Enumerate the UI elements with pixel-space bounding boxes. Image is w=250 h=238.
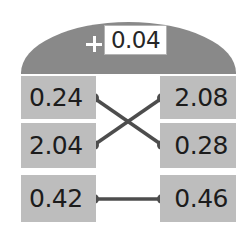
row-1: 0.24 2.08 — [0, 76, 250, 119]
row-1-left-value: 0.24 — [29, 83, 83, 112]
row-2-right-cell[interactable]: 0.28 — [160, 123, 236, 168]
row-1-right-cell[interactable]: 2.08 — [160, 76, 236, 119]
header-value-field[interactable]: 0.04 — [104, 25, 167, 55]
row-2-left-cell[interactable]: 2.04 — [21, 123, 96, 168]
row-2: 2.04 0.28 — [0, 123, 250, 168]
diagram-canvas: 0.04 0.24 2.08 2.04 0.28 0.42 0.46 — [0, 0, 250, 238]
header-value-text: 0.04 — [111, 27, 160, 53]
row-1-right-value: 2.08 — [174, 83, 228, 112]
row-3-right-cell[interactable]: 0.46 — [160, 175, 236, 222]
row-1-left-cell[interactable]: 0.24 — [21, 76, 96, 119]
row-3-left-cell[interactable]: 0.42 — [21, 175, 96, 222]
row-3-right-value: 0.46 — [174, 184, 228, 213]
row-3: 0.42 0.46 — [0, 175, 250, 222]
row-2-right-value: 0.28 — [174, 131, 228, 160]
row-2-left-value: 2.04 — [29, 131, 83, 160]
row-3-left-value: 0.42 — [29, 184, 83, 213]
